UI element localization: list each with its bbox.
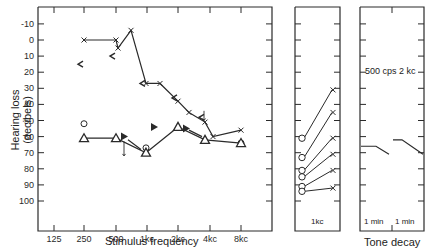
audiogram-chart: -1001020304050607080901001252505001kc2kc…: [0, 0, 431, 252]
svg-text:-10: -10: [21, 19, 34, 29]
tone-decay-annotation: 500 cps 2 kc: [365, 66, 416, 76]
svg-text:4kc: 4kc: [203, 234, 218, 244]
svg-text:10: 10: [24, 51, 34, 61]
svg-text:90: 90: [24, 180, 34, 190]
svg-text:125: 125: [46, 234, 61, 244]
svg-text:250: 250: [76, 234, 91, 244]
y-axis-label: Hearing loss (decibels): [9, 65, 33, 175]
svg-text:100: 100: [19, 196, 34, 206]
x-axis-label: Stimulus frequency: [105, 235, 199, 247]
tone-decay-tick-2: 1 min: [395, 217, 415, 226]
tone-decay-tick-1: 1 min: [364, 217, 384, 226]
panel2-x-label: 1kc: [311, 217, 323, 226]
tone-decay-label: Tone decay: [364, 236, 420, 248]
svg-text:0: 0: [29, 35, 34, 45]
svg-text:8kc: 8kc: [234, 234, 249, 244]
